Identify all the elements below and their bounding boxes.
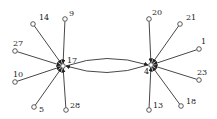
node-label: 5 <box>39 105 44 114</box>
node-label: 14 <box>39 13 49 22</box>
node-circle <box>31 22 36 27</box>
node-9: 9 <box>63 9 74 21</box>
node-circle <box>64 108 69 113</box>
edge-17-to-4 <box>66 58 148 66</box>
node-label: 9 <box>69 9 74 18</box>
node-label: 20 <box>152 8 162 17</box>
node-label: 27 <box>13 39 23 48</box>
edge-20-to-4 <box>149 21 151 62</box>
node-circle <box>197 78 202 83</box>
node-20: 20 <box>147 8 162 21</box>
node-circle <box>197 47 202 52</box>
node-14: 14 <box>31 13 49 26</box>
node-circle <box>32 105 37 110</box>
node-18: 18 <box>179 97 196 108</box>
nodes-layer: 149271052820211231813174 <box>13 8 207 114</box>
node-27: 27 <box>13 39 23 53</box>
node-4: 4 <box>144 63 153 76</box>
node-circle <box>61 64 66 69</box>
node-label: 1 <box>201 37 206 46</box>
graph-diagram: 149271052820211231813174 <box>0 0 217 119</box>
node-label: 13 <box>153 101 163 110</box>
node-label: 18 <box>186 97 196 106</box>
edge-9-to-17 <box>63 21 65 63</box>
node-label: 10 <box>13 70 23 79</box>
node-circle <box>13 49 18 54</box>
node-circle <box>178 22 183 27</box>
node-10: 10 <box>13 70 23 84</box>
node-circle <box>63 17 68 22</box>
graph-svg: 149271052820211231813174 <box>0 0 217 119</box>
edge-13-to-4 <box>149 67 151 107</box>
node-1: 1 <box>197 37 206 51</box>
node-circle <box>147 108 152 113</box>
node-label: 17 <box>67 56 77 65</box>
edge-4-to-17 <box>66 65 148 73</box>
node-circle <box>13 80 18 85</box>
node-21: 21 <box>178 13 196 26</box>
node-label: 21 <box>186 13 196 22</box>
node-circle <box>147 17 152 22</box>
node-circle <box>149 63 154 68</box>
node-label: 28 <box>70 101 80 110</box>
node-5: 5 <box>32 105 44 114</box>
node-circle <box>179 104 184 109</box>
edges-layer <box>17 21 196 107</box>
node-23: 23 <box>197 68 207 82</box>
node-label: 4 <box>144 67 149 76</box>
edge-28-to-17 <box>63 68 66 107</box>
node-label: 23 <box>197 68 207 77</box>
